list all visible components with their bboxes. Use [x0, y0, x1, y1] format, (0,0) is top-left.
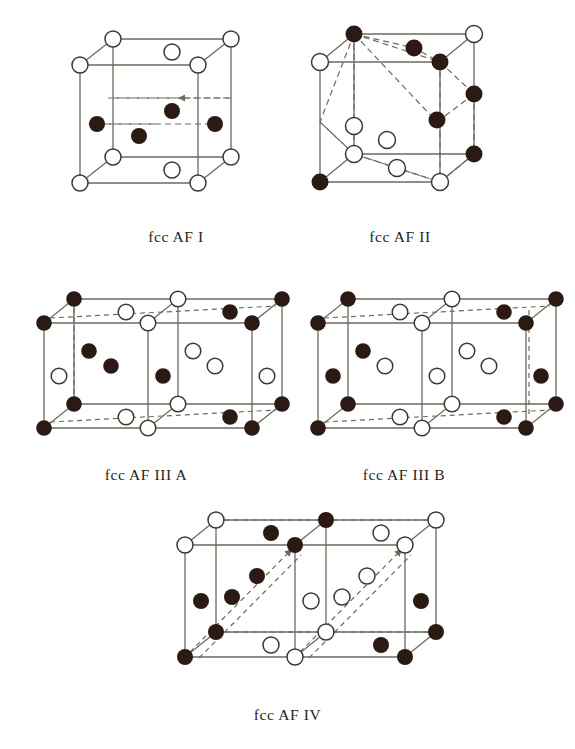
atom-filled: [131, 128, 147, 144]
atom-open: [140, 315, 156, 331]
atom-filled: [164, 103, 180, 119]
atom-filled: [263, 525, 279, 541]
atom-open: [397, 537, 413, 553]
atom-open: [312, 54, 329, 71]
panel-fcc-af-2: [312, 26, 483, 191]
atom-filled: [310, 420, 326, 436]
atom-open: [334, 589, 350, 605]
af4-atoms: [177, 512, 444, 665]
atom-filled: [429, 112, 446, 129]
atom-open: [223, 149, 239, 165]
atom-filled: [66, 291, 82, 307]
atom-open: [140, 420, 156, 436]
atom-open: [72, 57, 88, 73]
atom-filled: [548, 396, 564, 412]
atom-filled: [103, 358, 119, 374]
atom-open: [177, 537, 193, 553]
atom-open: [432, 174, 449, 191]
atom-filled: [325, 368, 341, 384]
panel-fcc-af-1: [72, 31, 239, 191]
atom-open: [392, 409, 408, 425]
af1-atoms: [72, 31, 239, 191]
atom-open: [346, 118, 363, 135]
atom-filled: [155, 368, 171, 384]
atom-filled: [287, 537, 303, 553]
caption-fcc-af-3a: fcc AF III A: [0, 466, 292, 484]
atom-open: [51, 368, 67, 384]
atom-filled: [208, 624, 224, 640]
atom-open: [208, 512, 224, 528]
crystal-structure-figure: fcc AF I fcc AF II fcc AF III A fcc AF I…: [0, 0, 575, 749]
atom-filled: [518, 315, 534, 331]
atom-open: [190, 175, 206, 191]
atom-filled: [177, 649, 193, 665]
atom-filled: [413, 593, 429, 609]
atom-open: [377, 358, 393, 374]
atom-filled: [428, 624, 444, 640]
atom-filled: [36, 315, 52, 331]
atom-filled: [406, 40, 423, 57]
atom-open: [459, 343, 475, 359]
atom-filled: [533, 368, 549, 384]
atom-open: [190, 57, 206, 73]
atom-open: [389, 160, 406, 177]
atom-filled: [355, 343, 371, 359]
atom-filled: [340, 291, 356, 307]
atom-filled: [207, 116, 223, 132]
atom-filled: [274, 396, 290, 412]
atom-open: [359, 568, 375, 584]
atom-open: [185, 343, 201, 359]
atom-filled: [548, 291, 564, 307]
atom-filled: [244, 315, 260, 331]
atom-filled: [249, 568, 265, 584]
atom-open: [263, 637, 279, 653]
atom-filled: [222, 304, 238, 320]
atom-open: [481, 358, 497, 374]
atom-open: [303, 593, 319, 609]
atom-filled: [274, 291, 290, 307]
atom-open: [170, 396, 186, 412]
atom-open: [444, 396, 460, 412]
atom-filled: [340, 396, 356, 412]
atom-open: [105, 31, 121, 47]
atom-filled: [66, 396, 82, 412]
caption-fcc-af-3b: fcc AF III B: [258, 466, 550, 484]
atom-filled: [346, 26, 363, 43]
atom-filled: [496, 304, 512, 320]
atom-filled: [244, 420, 260, 436]
atom-open: [414, 315, 430, 331]
atom-filled: [432, 54, 449, 71]
atom-open: [429, 368, 445, 384]
atom-open: [428, 512, 444, 528]
atom-filled: [318, 512, 334, 528]
atom-open: [164, 44, 180, 60]
atom-open: [318, 624, 334, 640]
atom-open: [287, 649, 303, 665]
atom-open: [164, 162, 180, 178]
atom-open: [223, 31, 239, 47]
atom-filled: [81, 343, 97, 359]
atom-filled: [193, 593, 209, 609]
caption-fcc-af-4: fcc AF IV: [0, 706, 575, 724]
atom-open: [72, 175, 88, 191]
atom-filled: [496, 409, 512, 425]
atom-open: [392, 304, 408, 320]
caption-fcc-af-2: fcc AF II: [224, 228, 575, 246]
atom-open: [466, 26, 483, 43]
atom-open: [379, 132, 396, 149]
panel-fcc-af-4: [177, 512, 444, 665]
af2-atoms: [312, 26, 483, 191]
atom-open: [259, 368, 275, 384]
atom-open: [118, 409, 134, 425]
atom-open: [373, 525, 389, 541]
atom-filled: [466, 86, 483, 103]
atom-filled: [373, 637, 389, 653]
fcc-antiferromagnetic-structures-svg: [0, 0, 575, 749]
atom-filled: [310, 315, 326, 331]
atom-open: [414, 420, 430, 436]
atom-open: [444, 291, 460, 307]
atom-filled: [89, 116, 105, 132]
af1-cube-edges: [80, 39, 231, 183]
atom-open: [105, 149, 121, 165]
atom-open: [170, 291, 186, 307]
